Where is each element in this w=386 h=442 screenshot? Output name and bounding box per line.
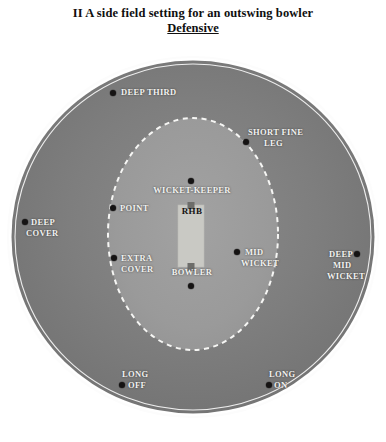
- long-on-label-line1: LONG: [269, 369, 295, 380]
- wicket-keeper-dot[interactable]: [188, 178, 194, 184]
- point-label: POINT: [120, 203, 149, 214]
- title-block: II A side field setting for an outswing …: [0, 0, 386, 36]
- mid-wicket-label-line1: MID: [245, 247, 264, 258]
- mid-wicket-label-line2: WICKET: [241, 258, 279, 269]
- page-title: II A side field setting for an outswing …: [0, 0, 386, 21]
- page-subtitle: Defensive: [0, 21, 386, 36]
- deep-cover-label-line1: DEEP: [31, 217, 55, 228]
- extra-cover-dot[interactable]: [111, 255, 117, 261]
- long-on-label-line2: ON: [274, 380, 287, 391]
- bowler-label: BOWLER: [160, 267, 224, 278]
- deep-third-dot[interactable]: [110, 90, 116, 96]
- deep-third-label: DEEP THIRD: [121, 87, 177, 98]
- short-fine-leg-label-line2: LEG: [264, 138, 283, 149]
- long-off-label-line1: LONG: [122, 369, 148, 380]
- deep-mid-wicket-label-line3: WICKET: [327, 271, 365, 282]
- fielder-overlay: DEEP THIRD SHORT FINE LEG POINT DEEP COV…: [0, 0, 386, 442]
- long-off-dot[interactable]: [119, 382, 125, 388]
- long-on-dot[interactable]: [266, 382, 272, 388]
- deep-mid-wicket-label-line1: DEEP: [329, 249, 353, 260]
- long-off-label-line2: OFF: [128, 380, 146, 391]
- short-fine-leg-label-line1: SHORT FINE: [248, 127, 303, 138]
- bowler-dot[interactable]: [188, 283, 194, 289]
- point-dot[interactable]: [110, 205, 116, 211]
- deep-cover-label-line2: COVER: [26, 228, 58, 239]
- deep-mid-wicket-label-line2: MID: [333, 260, 352, 271]
- wicket-keeper-label: WICKET-KEEPER: [151, 185, 233, 196]
- mid-wicket-dot[interactable]: [234, 249, 240, 255]
- rhb-batsman-label: RHB: [161, 206, 223, 216]
- short-fine-leg-dot[interactable]: [243, 139, 249, 145]
- extra-cover-label-line2: COVER: [121, 264, 153, 275]
- extra-cover-label-line1: EXTRA: [121, 253, 153, 264]
- deep-mid-wicket-dot[interactable]: [354, 251, 360, 257]
- deep-cover-dot[interactable]: [22, 219, 28, 225]
